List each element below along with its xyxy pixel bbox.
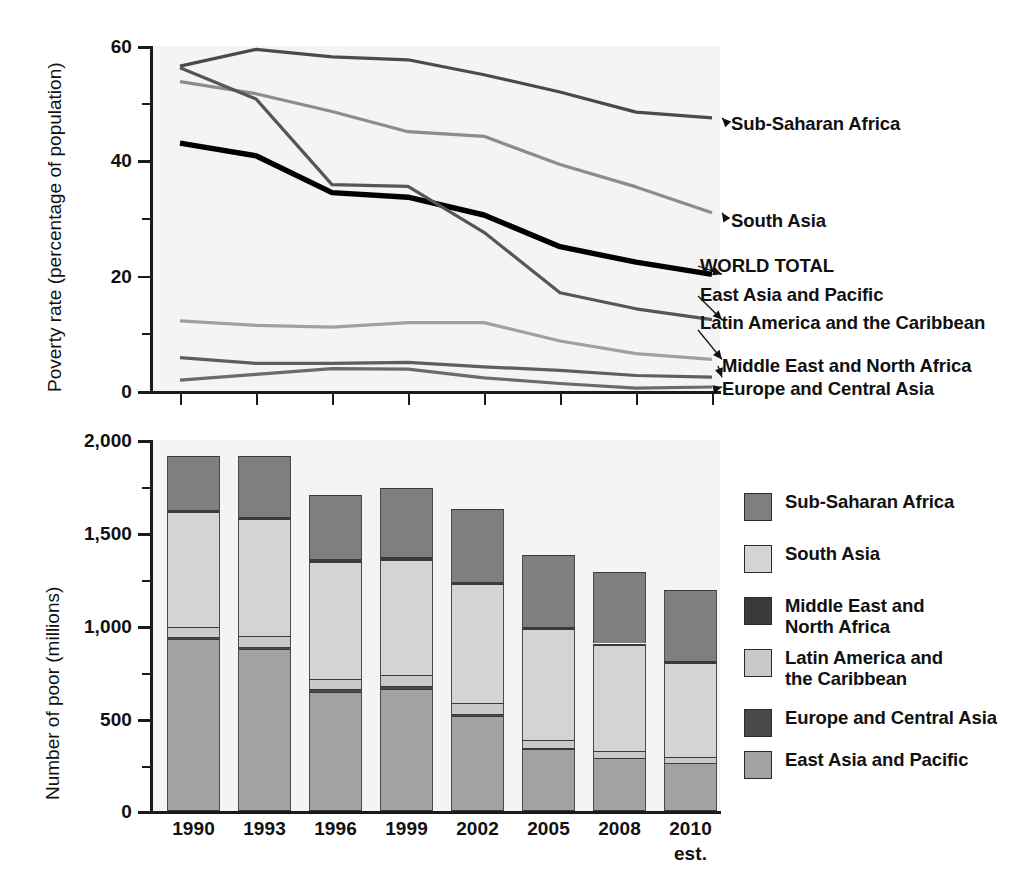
bar-segment-south-asia [451, 584, 504, 703]
bar-column-2002 [451, 509, 504, 811]
bar-column-1990 [167, 456, 220, 811]
figure-root: 60 40 20 0 Poverty rate (percentage of p… [0, 0, 1024, 888]
bar-segment-middle-east-and-north-africa [309, 559, 362, 561]
arrow-head-icon [722, 118, 731, 127]
bar-segment-south-asia [593, 645, 646, 751]
bar-segment-middle-east-and-north-africa [664, 661, 717, 662]
bar-segment-east-asia-and-pacific [238, 649, 291, 811]
bar-y-tick-label-2000: 2,000 [50, 430, 132, 452]
line-label-europe-and-central-asia: Europe and Central Asia [722, 379, 934, 400]
bar-segment-middle-east-and-north-africa [522, 627, 575, 629]
bar-segment-sub-saharan-africa [238, 456, 291, 517]
bar-y-tick-1250 [142, 580, 151, 582]
bar-segment-middle-east-and-north-africa [380, 557, 433, 560]
bar-y-tick-1000 [138, 626, 151, 629]
line-label-south-asia: South Asia [731, 211, 826, 232]
legend-swatch-icon [744, 597, 772, 625]
legend-item-latin-america-and-the-caribbean[interactable]: Latin America and the Caribbean [744, 648, 943, 690]
legend-label: Latin America and the Caribbean [785, 648, 943, 690]
bar-segment-south-asia [309, 562, 362, 679]
bar-segment-europe-and-central-asia [167, 637, 220, 639]
arrow-head-icon [712, 385, 722, 393]
bar-segment-latin-america-and-the-caribbean [522, 740, 575, 749]
arrow-head-icon [722, 213, 730, 223]
legend-swatch-icon [744, 709, 772, 737]
line-series-east-asia-and-pacific [180, 68, 712, 320]
legend-label: Middle East and North Africa [785, 596, 924, 638]
bar-segment-europe-and-central-asia [309, 689, 362, 693]
bar-column-2005 [522, 555, 575, 811]
bar-y-tick-500 [138, 719, 151, 722]
bar-segment-middle-east-and-north-africa [593, 644, 646, 646]
bar-segment-sub-saharan-africa [664, 590, 717, 662]
legend-item-east-asia-and-pacific[interactable]: East Asia and Pacific [744, 750, 968, 779]
legend-label: South Asia [785, 544, 880, 565]
legend-swatch-icon [744, 649, 772, 677]
bar-segment-latin-america-and-the-caribbean [167, 627, 220, 638]
legend-item-middle-east-and-north-africa[interactable]: Middle East and North Africa [744, 596, 924, 638]
bar-segment-sub-saharan-africa [167, 456, 220, 510]
bar-x-axis [150, 811, 721, 814]
bar-segment-latin-america-and-the-caribbean [238, 636, 291, 646]
bar-segment-east-asia-and-pacific [380, 689, 433, 811]
bar-segment-sub-saharan-africa [451, 509, 504, 581]
legend-label: Europe and Central Asia [785, 708, 997, 729]
legend-label: East Asia and Pacific [785, 750, 968, 771]
bar-segment-middle-east-and-north-africa [451, 582, 504, 584]
bar-segment-latin-america-and-the-caribbean [380, 675, 433, 686]
line-series-sub-saharan-africa [180, 49, 712, 118]
bar-column-2008 [593, 572, 646, 811]
bar-segment-east-asia-and-pacific [451, 716, 504, 811]
bar-y-tick-250 [142, 766, 151, 768]
bar-segment-latin-america-and-the-caribbean [664, 757, 717, 763]
line-label-middle-east-and-north-africa: Middle East and North Africa [722, 356, 971, 377]
bar-segment-south-asia [664, 663, 717, 757]
bar-segment-middle-east-and-north-africa [167, 510, 220, 512]
bar-segment-south-asia [522, 629, 575, 740]
bar-segment-east-asia-and-pacific [664, 763, 717, 811]
bar-segment-europe-and-central-asia [451, 714, 504, 716]
legend-swatch-icon [744, 751, 772, 779]
bar-segment-south-asia [238, 519, 291, 636]
legend-item-europe-and-central-asia[interactable]: Europe and Central Asia [744, 708, 997, 737]
bar-y-tick-0 [138, 811, 151, 814]
bar-segment-latin-america-and-the-caribbean [309, 679, 362, 689]
bar-segment-south-asia [167, 512, 220, 626]
line-label-sub-saharan-africa: Sub-Saharan Africa [731, 114, 900, 135]
bar-segment-south-asia [380, 560, 433, 675]
bar-segment-east-asia-and-pacific [309, 692, 362, 811]
bar-segment-europe-and-central-asia [238, 647, 291, 650]
bar-column-1996 [309, 495, 362, 811]
bar-y-tick-label-0: 0 [50, 801, 132, 823]
bar-segment-east-asia-and-pacific [522, 749, 575, 811]
bar-segment-latin-america-and-the-caribbean [593, 751, 646, 758]
bar-segment-middle-east-and-north-africa [238, 517, 291, 519]
line-label-east-asia-and-pacific: East Asia and Pacific [700, 285, 883, 306]
bar-chart-legend: Sub-Saharan AfricaSouth AsiaMiddle East … [744, 492, 1014, 792]
legend-item-south-asia[interactable]: South Asia [744, 544, 880, 573]
bar-segment-europe-and-central-asia [380, 686, 433, 689]
bar-column-2010 [664, 590, 717, 811]
bar-column-1993 [238, 456, 291, 811]
legend-swatch-icon [744, 493, 772, 521]
bar-x-label-2010: 2010 [649, 818, 732, 840]
legend-item-sub-saharan-africa[interactable]: Sub-Saharan Africa [744, 492, 954, 521]
bar-segment-east-asia-and-pacific [167, 639, 220, 811]
bar-y-tick-2000 [138, 440, 151, 443]
bar-segment-east-asia-and-pacific [593, 758, 646, 811]
line-series-latin-america-and-the-caribbean [180, 321, 712, 360]
arrow-head-icon [713, 350, 722, 360]
bar-segment-sub-saharan-africa [309, 495, 362, 560]
bar-y-tick-1500 [138, 533, 151, 536]
line-label-world-total: WORLD TOTAL [700, 256, 834, 277]
bar-segment-sub-saharan-africa [593, 572, 646, 644]
bar-segment-sub-saharan-africa [522, 555, 575, 627]
bar-segment-latin-america-and-the-caribbean [451, 703, 504, 715]
legend-label: Sub-Saharan Africa [785, 492, 954, 513]
bar-y-tick-label-1500: 1,500 [50, 523, 132, 545]
bar-y-tick-750 [142, 673, 151, 675]
line-series-europe-and-central-asia [180, 369, 712, 389]
bar-y-tick-1750 [142, 487, 151, 489]
legend-swatch-icon [744, 545, 772, 573]
bar-y-axis-title: Number of poor (millions) [42, 587, 64, 800]
